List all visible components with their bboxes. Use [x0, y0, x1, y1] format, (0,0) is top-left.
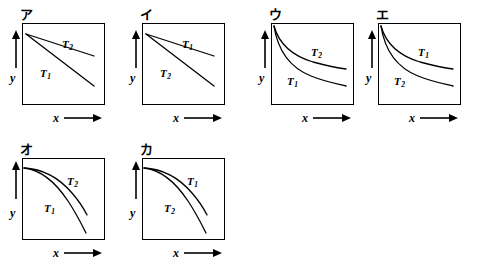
panel-a-label-lower-text: T	[40, 67, 47, 79]
panel-a-label-lower: T1	[40, 68, 50, 79]
panel-d-curves	[363, 0, 483, 130]
panel-f-label-lower-text: T	[164, 202, 171, 214]
panel-a-label-lower-sub: 1	[47, 72, 51, 81]
panel-b-label-upper-text: T	[182, 38, 189, 50]
panel-a: ア y x T2 T1	[0, 0, 120, 130]
panel-f-label-upper-text: T	[187, 175, 194, 187]
panel-c-label-lower-text: T	[287, 75, 294, 87]
panel-c-label-upper-text: T	[311, 46, 318, 58]
panel-d: エ y x T1 T2	[363, 0, 483, 130]
panel-a-curve-t1	[26, 34, 94, 86]
panel-f-curves	[120, 135, 240, 269]
panel-c-label-lower: T1	[287, 76, 297, 87]
panel-e-label-lower-text: T	[44, 202, 51, 214]
panel-d-label-upper: T1	[418, 47, 428, 58]
panel-b-label-lower: T2	[160, 68, 170, 79]
panel-d-label-lower-text: T	[394, 75, 401, 87]
panel-c-label-upper-sub: 2	[318, 51, 322, 60]
panel-e-label-upper: T2	[67, 176, 77, 187]
panel-b-label-upper-sub: 1	[189, 43, 193, 52]
panel-b-curves	[120, 0, 240, 130]
panel-c-label-lower-sub: 1	[294, 80, 298, 89]
panel-f-label-upper: T1	[187, 176, 197, 187]
panel-e-label-upper-text: T	[67, 175, 74, 187]
panel-d-label-upper-sub: 1	[425, 51, 429, 60]
panel-e-label-upper-sub: 2	[74, 180, 78, 189]
panel-f-label-lower-sub: 2	[171, 207, 175, 216]
panel-e-label-lower: T1	[44, 203, 54, 214]
panel-b-label-upper: T1	[182, 39, 192, 50]
panel-f-label-upper-sub: 1	[194, 180, 198, 189]
panel-f: カ y x T1 T2	[120, 135, 240, 269]
panel-d-label-upper-text: T	[418, 46, 425, 58]
panel-d-label-lower: T2	[394, 76, 404, 87]
panel-e-curve-t2	[24, 168, 87, 215]
panel-c: ウ y x T2 T1	[243, 0, 363, 130]
panel-d-curve-t2	[381, 26, 453, 86]
panel-f-label-lower: T2	[164, 203, 174, 214]
panel-c-curves	[243, 0, 363, 130]
panel-f-curve-t1	[144, 168, 207, 215]
panel-a-label-upper-sub: 2	[69, 43, 73, 52]
panel-b-curve-t2	[146, 34, 214, 86]
panel-c-curve-t2	[274, 26, 346, 69]
panel-d-curve-t1	[381, 26, 453, 69]
panel-a-label-upper-text: T	[62, 38, 69, 50]
panel-b-label-lower-text: T	[160, 67, 167, 79]
figure-container: ア y x T2 T1 イ y x	[0, 0, 483, 269]
panel-a-curves	[0, 0, 120, 130]
panel-b-curve-t1	[146, 34, 214, 56]
panel-b-label-lower-sub: 2	[167, 72, 171, 81]
panel-a-label-upper: T2	[62, 39, 72, 50]
panel-d-label-lower-sub: 2	[401, 80, 405, 89]
panel-e-curves	[0, 135, 120, 269]
panel-e: オ y x T2 T1	[0, 135, 120, 269]
panel-e-label-lower-sub: 1	[51, 207, 55, 216]
panel-a-curve-t2	[26, 34, 94, 56]
panel-c-label-upper: T2	[311, 47, 321, 58]
panel-c-curve-t1	[274, 26, 346, 86]
panel-b: イ y x T1 T2	[120, 0, 240, 130]
